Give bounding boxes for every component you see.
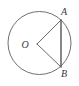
point-label-b: B [61, 68, 67, 79]
circle-diagram-canvas: A B O [0, 0, 79, 86]
geometry-figure: A B O [0, 0, 79, 86]
segment-radius-oa [37, 20, 61, 44]
point-label-a: A [60, 6, 68, 17]
point-label-o: O [21, 39, 28, 50]
segment-radius-ob [37, 44, 61, 67]
